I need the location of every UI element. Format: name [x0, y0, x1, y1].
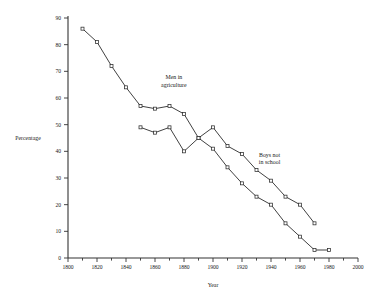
y-tick-label: 70 — [55, 68, 61, 74]
data-point-marker — [212, 147, 215, 150]
x-tick-label: 1800 — [62, 264, 73, 270]
annotation-men-in-agriculture: Men inagriculture — [161, 74, 187, 87]
y-tick-label: 80 — [55, 42, 61, 48]
data-point-marker — [284, 222, 287, 225]
y-axis-title: Percentage — [15, 135, 41, 141]
data-point-marker — [255, 195, 258, 198]
line-chart: 1800182018401860188019001920194019601980… — [0, 0, 392, 297]
annotation-line: agriculture — [161, 82, 187, 88]
data-point-marker — [299, 203, 302, 206]
data-point-marker — [255, 169, 258, 172]
data-point-marker — [299, 235, 302, 238]
x-tick-label: 1880 — [178, 264, 189, 270]
chart-container: 1800182018401860188019001920194019601980… — [0, 0, 392, 297]
series-line-2 — [141, 127, 315, 223]
data-point-marker — [226, 145, 229, 148]
x-axis-title: Year — [208, 282, 219, 288]
data-point-marker — [197, 137, 200, 140]
annotation-line: in school — [259, 159, 281, 165]
data-point-marker — [270, 203, 273, 206]
data-point-marker — [81, 27, 84, 30]
data-point-marker — [183, 113, 186, 116]
data-point-marker — [110, 65, 113, 68]
x-tick-label: 2000 — [352, 264, 363, 270]
data-point-marker — [168, 105, 171, 108]
x-tick-label: 1960 — [294, 264, 305, 270]
data-point-marker — [241, 182, 244, 185]
data-point-marker — [328, 249, 331, 252]
y-tick-label: 60 — [55, 95, 61, 101]
x-tick-label: 1820 — [91, 264, 102, 270]
y-tick-label: 20 — [55, 202, 61, 208]
data-point-marker — [139, 105, 142, 108]
data-series-group — [83, 29, 330, 250]
x-tick-label: 1940 — [265, 264, 276, 270]
x-tick-label: 1980 — [323, 264, 334, 270]
data-point-marker — [270, 179, 273, 182]
data-point-marker — [139, 126, 142, 129]
x-tick-label: 1860 — [149, 264, 160, 270]
data-point-marker — [125, 86, 128, 89]
data-point-marker — [226, 166, 229, 169]
y-tick-label: 30 — [55, 175, 61, 181]
data-point-marker — [313, 222, 316, 225]
x-tick-label: 1840 — [120, 264, 131, 270]
x-axis-tick-labels: 1800182018401860188019001920194019601980… — [62, 264, 363, 270]
data-point-marker — [212, 126, 215, 129]
data-point-marker — [241, 153, 244, 156]
y-tick-label: 0 — [58, 255, 61, 261]
y-tick-label: 90 — [55, 15, 61, 21]
data-point-marker — [183, 150, 186, 153]
data-point-marker — [154, 131, 157, 134]
annotation-boys-not-in-school: Boys notin school — [259, 152, 281, 165]
series-annotations: Men inagricultureBoys notin school — [161, 74, 281, 165]
data-point-marker — [313, 249, 316, 252]
x-tick-label: 1900 — [207, 264, 218, 270]
annotation-line: Men in — [165, 74, 182, 80]
data-point-marker — [154, 107, 157, 110]
series-line-1 — [83, 29, 330, 250]
data-point-marker — [168, 126, 171, 129]
y-axis-tick-labels: 0102030405060708090 — [55, 15, 61, 261]
annotation-line: Boys not — [259, 152, 280, 158]
x-axis-ticks — [68, 258, 358, 262]
y-tick-label: 10 — [55, 228, 61, 234]
data-point-marker — [284, 195, 287, 198]
data-point-marker — [96, 41, 99, 44]
y-axis-ticks — [64, 18, 68, 258]
y-tick-label: 40 — [55, 148, 61, 154]
x-tick-label: 1920 — [236, 264, 247, 270]
data-point-markers — [81, 27, 331, 251]
y-tick-label: 50 — [55, 122, 61, 128]
